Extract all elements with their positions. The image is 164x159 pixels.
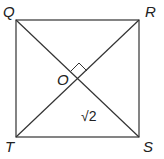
segment-length-label: √2 xyxy=(81,108,97,124)
vertex-label-r: R xyxy=(145,3,156,20)
vertex-label-t: T xyxy=(5,138,16,155)
right-angle-marker xyxy=(71,63,87,71)
center-label-o: O xyxy=(57,71,69,88)
geometry-diagram: Q R S T O √2 xyxy=(0,0,164,159)
vertex-label-q: Q xyxy=(3,3,15,20)
vertex-label-s: S xyxy=(143,138,153,155)
